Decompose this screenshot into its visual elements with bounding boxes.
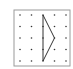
grid-dot [31,49,33,51]
grid-dot [19,26,21,28]
geoboard-diagram [0,0,73,69]
grid-dot [65,49,67,51]
grid-dot [19,60,21,62]
grid-dot [54,49,56,51]
grid-dot [65,26,67,28]
board-frame [14,10,70,66]
grid-dot [65,14,67,16]
grid-dot [31,26,33,28]
grid-dot [65,37,67,39]
grid-dot [65,60,67,62]
grid-dot [19,49,21,51]
grid-dot [31,14,33,16]
grid-dot [54,14,56,16]
grid-dot [31,37,33,39]
grid-dot [19,37,21,39]
grid-dot [54,26,56,28]
grid-dot [31,60,33,62]
grid-dot [54,60,56,62]
grid-dot [19,14,21,16]
